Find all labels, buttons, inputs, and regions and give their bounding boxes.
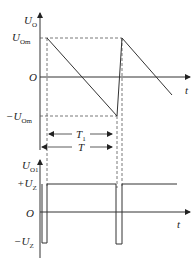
top-y-axis-label: UO [24,14,37,29]
top-plot: UO UOm O −UOm t T1 T [6,13,190,188]
bottom-plot: UO1 +UZ O −UZ t [14,159,190,258]
top-x-axis-label: t [185,84,189,96]
pulse-waveform [42,184,177,244]
bottom-y-axis-label: UO1 [22,159,39,174]
t-label: T [78,141,85,153]
waveform-diagram: UO UOm O −UOm t T1 T UO1 +UZ O −UZ t [0,0,195,269]
bottom-origin-label: O [26,207,34,219]
top-origin-label: O [29,71,37,83]
bottom-x-axis-label: t [177,218,181,230]
bottom-lower-level-label: −UZ [14,235,34,250]
lower-level-label: −UOm [6,110,32,125]
upper-level-label: UOm [12,31,31,46]
bottom-upper-level-label: +UZ [17,177,37,192]
